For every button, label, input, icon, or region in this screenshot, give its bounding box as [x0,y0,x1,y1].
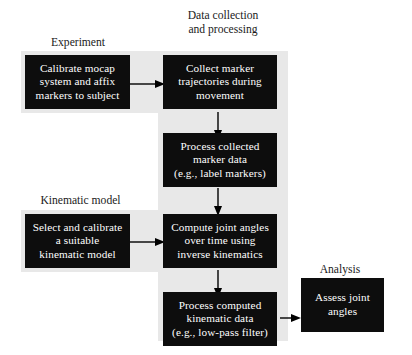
node-assess-joint-angles-line2: angles [315,305,370,319]
node-assess-joint-angles[interactable]: Assess joint angles [301,278,384,332]
node-process-collected-marker-data-line3: (e.g., label markers) [174,167,266,181]
node-process-computed-kinematic-data-line3: (e.g., low-pass filter) [172,326,268,340]
node-calibrate-mocap-line2: system and affix [36,75,120,89]
arrow-process-kinematic-to-assess [280,312,302,324]
node-collect-marker-trajectories[interactable]: Collect marker trajectories during movem… [163,55,277,109]
node-calibrate-mocap-line1: Calibrate mocap [36,62,120,76]
node-collect-marker-trajectories-line2: trajectories during [178,75,262,89]
heading-analysis-label: Analysis [320,263,361,276]
heading-kinematic-model-label: Kinematic model [40,194,120,207]
node-collect-marker-trajectories-line3: movement [178,89,262,103]
flowchart-diagram: Experiment Data collection and processin… [0,0,412,355]
heading-data-collection-line1: Data collection [160,9,286,23]
node-compute-joint-angles-line1: Compute joint angles [171,221,269,235]
node-compute-joint-angles-line2: over time using [171,234,269,248]
arrow-calibrate-to-collect [130,78,166,90]
node-collect-marker-trajectories-line1: Collect marker [178,62,262,76]
node-process-collected-marker-data[interactable]: Process collected marker data (e.g., lab… [163,133,277,187]
node-compute-joint-angles-line3: inverse kinematics [171,248,269,262]
node-compute-joint-angles[interactable]: Compute joint angles over time using inv… [163,214,277,268]
node-select-kinematic-model-line1: Select and calibrate [33,221,123,235]
heading-experiment: Experiment [23,36,133,50]
arrow-select-model-to-compute [130,236,166,248]
node-calibrate-mocap-line3: markers to subject [36,89,120,103]
node-process-collected-marker-data-line1: Process collected [174,140,266,154]
node-process-computed-kinematic-data-line2: kinematic data [172,312,268,326]
heading-data-collection-line2: and processing [160,23,286,37]
node-process-computed-kinematic-data-line1: Process computed [172,299,268,313]
node-select-kinematic-model-line2: a suitable [33,234,123,248]
heading-analysis: Analysis [297,263,383,277]
node-calibrate-mocap[interactable]: Calibrate mocap system and affix markers… [25,55,130,109]
node-select-kinematic-model-line3: kinematic model [33,248,123,262]
node-process-collected-marker-data-line2: marker data [174,153,266,167]
arrow-process-marker-to-compute [211,188,225,217]
heading-kinematic-model: Kinematic model [18,194,143,208]
heading-experiment-label: Experiment [51,36,105,49]
node-process-computed-kinematic-data[interactable]: Process computed kinematic data (e.g., l… [163,292,277,346]
node-assess-joint-angles-line1: Assess joint [315,291,370,305]
heading-data-collection: Data collection and processing [160,9,286,37]
node-select-kinematic-model[interactable]: Select and calibrate a suitable kinemati… [25,214,130,268]
